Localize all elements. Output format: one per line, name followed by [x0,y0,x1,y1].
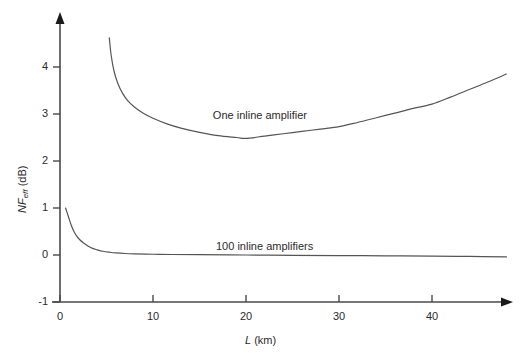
y-tick-label: -1 [14,296,48,307]
x-tick-label: 30 [319,311,359,322]
y-tick-label: 4 [14,61,48,72]
x-tick-label: 0 [40,311,80,322]
x-axis-arrow-icon [501,298,513,307]
data-series-group [66,38,507,257]
chart-figure: -101234 010203040 NFeff (dB) L (km) One … [0,0,531,363]
y-axis-title-symbol: NF [16,198,28,213]
series-annotation-100-inline-amplifiers: 100 inline amplifiers [216,241,313,252]
y-tick-label: 2 [14,155,48,166]
y-tick-marks [53,67,60,302]
plot-canvas [0,0,531,363]
x-tick-label: 10 [133,311,173,322]
x-axis-title: L (km) [245,335,276,346]
x-axis-title-unit: (km) [251,334,276,346]
series-line-one-inline-amplifier [109,38,506,139]
y-axis-title-unit: (dB) [16,166,28,190]
x-tick-label: 20 [226,311,266,322]
x-tick-marks [60,295,432,302]
y-axis-arrow-icon [56,12,65,24]
series-annotation-one-inline-amplifier: One inline amplifier [213,110,307,121]
x-tick-label: 40 [412,311,452,322]
y-tick-label: 0 [14,249,48,260]
y-axis-title-subscript: eff [21,189,30,198]
y-axis-title: NFeff (dB) [17,166,30,213]
axis-lines [52,12,513,307]
y-tick-label: 3 [14,108,48,119]
